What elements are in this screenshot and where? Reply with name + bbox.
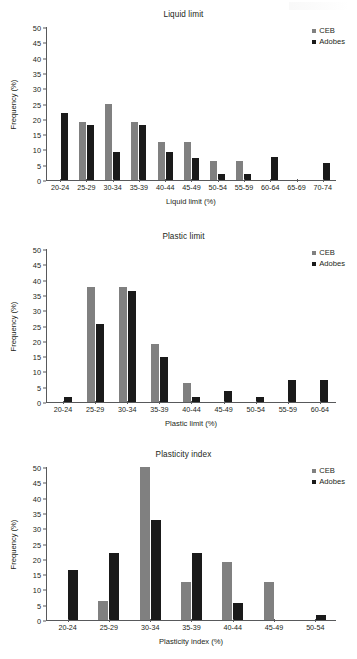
x-tick-label: 50-54 [205, 183, 231, 192]
x-tick-mark [68, 619, 69, 622]
y-tick-mark [43, 605, 46, 606]
y-tick-mark [43, 150, 46, 151]
x-tick-label: 55-59 [231, 183, 257, 192]
bar-group [208, 249, 240, 402]
x-tick-label: 50-54 [295, 623, 336, 632]
x-tick-mark [297, 179, 298, 182]
bar-group [240, 249, 272, 402]
x-tick-mark [323, 179, 324, 182]
x-tick-labels: 20-2425-2930-3435-3940-4445-4950-54 [47, 623, 336, 632]
bar-adobes [244, 174, 251, 180]
y-tick-mark [43, 135, 46, 136]
chart-panel-liquid-limit: Liquid limit CEB Adobes Frequency (%) 05… [0, 0, 357, 222]
bar-group [100, 27, 126, 180]
bar-ceb [158, 142, 165, 180]
y-tick-mark [43, 498, 46, 499]
x-tick-label: 45-49 [253, 623, 294, 632]
y-tick-mark [43, 58, 46, 59]
y-tick-mark [43, 28, 46, 29]
x-tick-mark [165, 179, 166, 182]
x-axis-title: Plasticity index (%) [46, 637, 336, 646]
x-axis-title: Plastic limit (%) [46, 419, 336, 428]
x-tick-label: 45-49 [178, 183, 204, 192]
y-tick-mark [43, 529, 46, 530]
bar-adobes [128, 291, 136, 402]
y-tick-mark [43, 387, 46, 388]
x-tick-mark [218, 179, 219, 182]
bar-group [304, 249, 336, 402]
x-tick-mark [191, 179, 192, 182]
x-tick-label: 40-44 [175, 405, 207, 414]
x-tick-mark [224, 401, 225, 404]
x-tick-label: 25-29 [73, 183, 99, 192]
chart-title: Liquid limit [0, 10, 357, 19]
x-tick-label: 30-34 [100, 183, 126, 192]
y-tick-mark [43, 119, 46, 120]
bar-ceb [105, 104, 112, 181]
x-tick-label: 30-34 [111, 405, 143, 414]
x-tick-mark [274, 619, 275, 622]
chart-panel-plastic-limit: Plastic limit CEB Adobes Frequency (%) 0… [0, 222, 357, 440]
bar-ceb [140, 467, 150, 620]
y-tick-mark [43, 43, 46, 44]
y-tick-mark [43, 372, 46, 373]
x-tick-mark [150, 619, 151, 622]
y-axis-title: Frequency (%) [8, 27, 20, 181]
bars-container [47, 27, 336, 180]
bar-group [272, 249, 304, 402]
bars-container [47, 467, 336, 620]
bar-adobes [320, 380, 328, 402]
bar-adobes [288, 380, 296, 402]
y-tick-mark [43, 559, 46, 560]
x-tick-mark [288, 401, 289, 404]
bar-adobes [109, 553, 119, 620]
bar-adobes [323, 163, 330, 180]
x-tick-label: 25-29 [88, 623, 129, 632]
bar-adobes [64, 397, 72, 403]
y-tick-mark [43, 513, 46, 514]
bar-group [178, 27, 204, 180]
y-tick-mark [43, 575, 46, 576]
chart-title: Plastic limit [0, 232, 357, 241]
bar-ceb [222, 562, 232, 620]
bar-group [283, 27, 309, 180]
x-tick-mark [127, 401, 128, 404]
bar-group [73, 27, 99, 180]
x-tick-mark [109, 619, 110, 622]
y-tick-mark [43, 311, 46, 312]
bar-ceb [181, 582, 191, 620]
x-tick-mark [191, 619, 192, 622]
bar-group [152, 27, 178, 180]
x-tick-mark [191, 401, 192, 404]
histogram-figure: Liquid limit CEB Adobes Frequency (%) 05… [0, 0, 357, 659]
y-tick-mark [43, 280, 46, 281]
x-tick-label: 50-54 [240, 405, 272, 414]
bar-group [126, 27, 152, 180]
bar-adobes [192, 553, 202, 620]
bar-group [111, 249, 143, 402]
bar-ceb [210, 161, 217, 180]
bar-group [79, 249, 111, 402]
x-tick-label: 35-39 [126, 183, 152, 192]
bar-adobes [224, 391, 232, 402]
bar-group [295, 467, 336, 620]
bar-adobes [87, 125, 94, 180]
bar-group [257, 27, 283, 180]
bar-adobes [68, 570, 78, 620]
x-tick-labels: 20-2425-2930-3435-3940-4445-4950-5455-59… [47, 405, 336, 414]
bar-adobes [256, 397, 264, 403]
y-tick-mark [43, 590, 46, 591]
bars-container [47, 249, 336, 402]
bar-group [47, 249, 79, 402]
bar-adobes [139, 125, 146, 180]
bar-ceb [131, 122, 138, 180]
x-tick-mark [139, 179, 140, 182]
x-tick-mark [86, 179, 87, 182]
chart-panel-plasticity-index: Plasticity index CEB Adobes Frequency (%… [0, 440, 357, 659]
x-tick-mark [320, 401, 321, 404]
x-tick-labels: 20-2425-2930-3435-3940-4445-4950-5455-59… [47, 183, 336, 192]
x-tick-label: 35-39 [171, 623, 212, 632]
x-axis-title: Liquid limit (%) [46, 197, 336, 206]
x-tick-mark [256, 401, 257, 404]
x-tick-mark [60, 179, 61, 182]
